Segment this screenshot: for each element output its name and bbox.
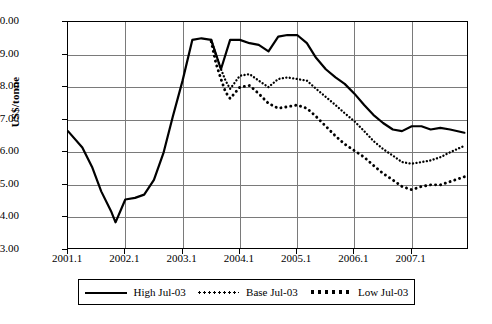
chart-legend: High Jul-03 Base Jul-03 Low Jul-03: [78, 279, 415, 305]
series-line-low-jul-03: [211, 42, 464, 190]
y-axis-tick-label: 4.00: [0, 210, 19, 221]
y-axis-tick-label: 6.00: [0, 145, 19, 156]
legend-label-low: Low Jul-03: [358, 286, 408, 298]
legend-item-low: Low Jul-03: [309, 286, 408, 298]
y-axis-tick-label: 3.00: [0, 243, 19, 254]
legend-item-high: High Jul-03: [85, 286, 186, 298]
legend-label-high: High Jul-03: [134, 286, 186, 298]
y-axis-tick-label: 7.00: [0, 113, 19, 124]
legend-swatch-base-dotted-icon: [197, 288, 239, 297]
legend-label-base: Base Jul-03: [246, 286, 298, 298]
data-series-layer: [68, 22, 469, 250]
chart-container: US$/tonne 10.009.008.007.006.005.004.003…: [0, 0, 492, 324]
legend-item-base: Base Jul-03: [197, 286, 298, 298]
y-axis-label: US$/tonne: [9, 59, 21, 145]
series-line-base-jul-03: [211, 40, 464, 164]
y-axis-tick-label: 8.00: [0, 80, 19, 91]
plot-area: [67, 21, 468, 249]
series-line-high-jul-03: [68, 35, 464, 222]
y-axis-tick-label: 5.00: [0, 178, 19, 189]
legend-swatch-low-dotted-icon: [309, 288, 351, 297]
legend-swatch-high-line-icon: [85, 288, 127, 297]
y-axis-tick-label: 9.00: [0, 48, 19, 59]
y-axis-tick-label: 10.00: [0, 15, 19, 26]
